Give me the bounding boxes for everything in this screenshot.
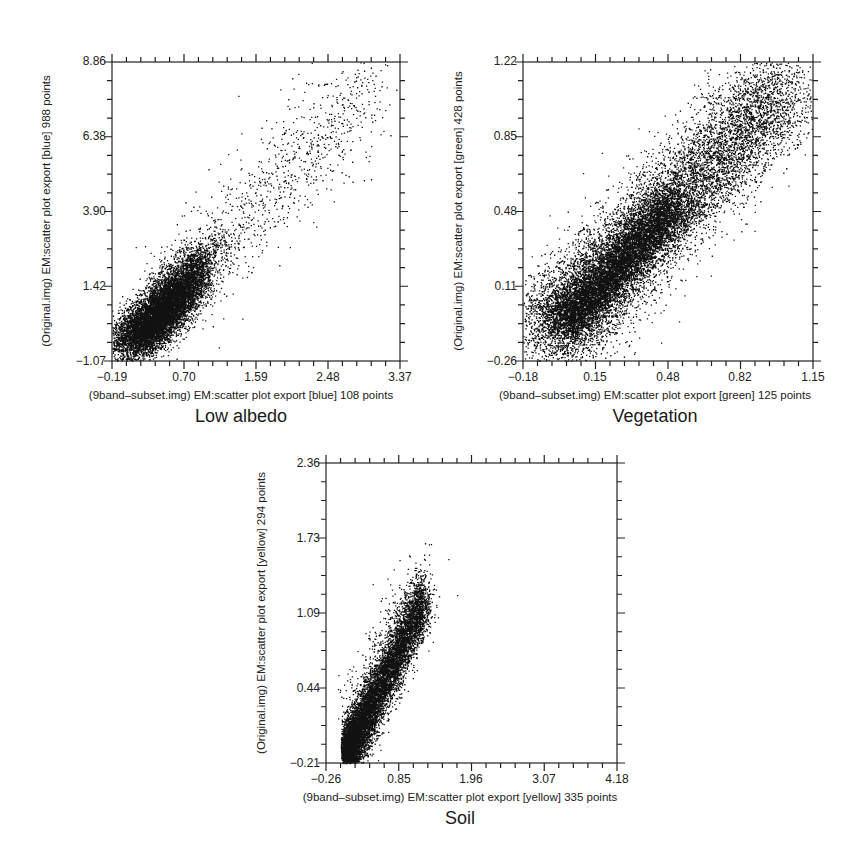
x-axis-label: (9band–subset.img) EM:scatter plot expor…	[280, 791, 640, 803]
y-tick-label: 1.09	[270, 606, 320, 620]
chart-title: Soil	[280, 808, 640, 829]
y-tick-label: 2.36	[270, 456, 320, 470]
y-tick-label: 0.44	[270, 681, 320, 695]
y-axis-label: (Original.img) EM:scatter plot export [y…	[255, 463, 267, 763]
x-tick-label: 1.96	[446, 772, 496, 786]
x-tick-label: 0.85	[374, 772, 424, 786]
y-tick-label: 1.73	[270, 531, 320, 545]
x-tick-label: −0.26	[301, 772, 351, 786]
plot-area-soil	[0, 0, 864, 854]
y-tick-label: −0.21	[270, 756, 320, 770]
scatter-panel-soil: (Original.img) EM:scatter plot export [y…	[0, 0, 864, 854]
x-tick-label: 3.07	[519, 772, 569, 786]
x-tick-label: 4.18	[592, 772, 642, 786]
